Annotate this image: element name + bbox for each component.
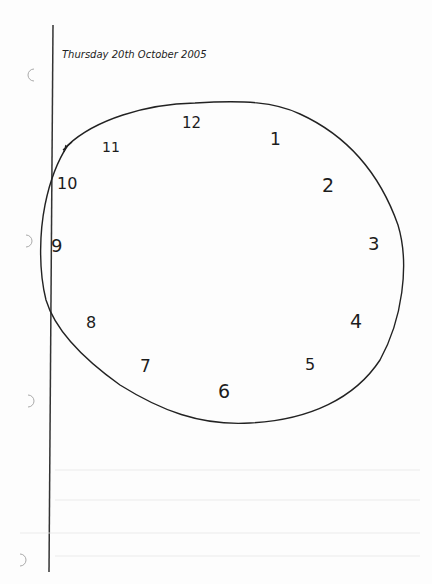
numeral-8: 8 (86, 313, 96, 332)
numeral-3: 3 (368, 233, 379, 254)
numeral-6: 6 (218, 380, 230, 402)
margin-line (49, 25, 53, 572)
binder-hole-3 (28, 395, 34, 407)
scanned-paper-page: Thursday 20th October 2005 12 1 2 3 4 5 … (0, 0, 432, 584)
numeral-9: 9 (51, 235, 62, 256)
clock-drawing-canvas: Thursday 20th October 2005 12 1 2 3 4 5 … (0, 0, 432, 584)
clock-face-outline (41, 102, 404, 424)
numeral-7: 7 (140, 356, 151, 376)
binder-hole-2 (26, 235, 32, 247)
date-text: Thursday 20th October 2005 (62, 49, 207, 60)
numeral-4: 4 (350, 310, 362, 332)
binder-hole-4 (20, 554, 26, 566)
numeral-11: 11 (102, 139, 120, 155)
numeral-2: 2 (322, 174, 334, 196)
numeral-1: 1 (270, 129, 281, 149)
numeral-5: 5 (305, 355, 315, 374)
ruled-lines (20, 470, 420, 556)
numeral-12: 12 (182, 114, 201, 132)
numeral-10: 10 (57, 174, 77, 193)
binder-hole-1 (28, 69, 34, 81)
